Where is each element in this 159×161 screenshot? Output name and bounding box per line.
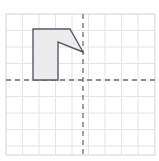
grid-lines xyxy=(6,14,155,155)
coordinate-grid-figure xyxy=(0,0,159,161)
grid-outer-border xyxy=(6,14,155,155)
figure-canvas xyxy=(0,0,159,161)
coordinate-axes xyxy=(6,14,155,155)
notched-polygon xyxy=(33,29,83,80)
